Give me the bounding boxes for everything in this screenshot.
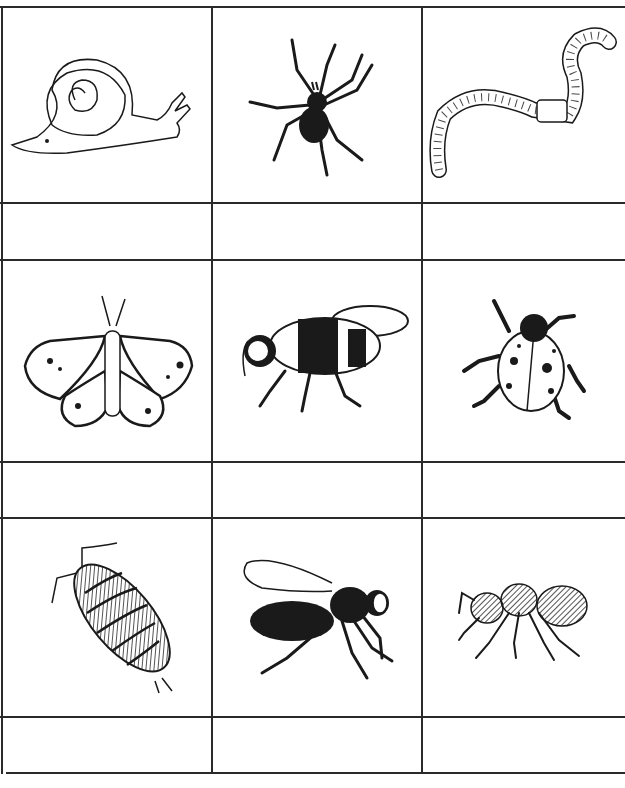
picture-cell-ladybird (423, 261, 625, 461)
picture-cell-earthworm (423, 8, 625, 202)
snail-icon (7, 45, 207, 165)
woodlouse-icon (27, 543, 187, 693)
picture-cell-woodlouse (3, 519, 211, 716)
spider-icon (242, 30, 392, 180)
label-cell-bumblebee[interactable] (213, 463, 421, 517)
bumblebee-icon (230, 301, 405, 421)
label-cell-snail[interactable] (3, 204, 211, 259)
label-cell-spider[interactable] (213, 204, 421, 259)
ladybird-icon (459, 296, 589, 426)
picture-cell-ant (423, 519, 625, 716)
picture-cell-snail (3, 8, 211, 202)
picture-cell-bumblebee (213, 261, 421, 461)
grid-line (6, 772, 625, 774)
picture-cell-spider (213, 8, 421, 202)
label-cell-wasp[interactable] (213, 718, 421, 772)
picture-cell-wasp (213, 519, 421, 716)
picture-cell-butterfly (3, 261, 211, 461)
label-cell-woodlouse[interactable] (3, 718, 211, 772)
ant-icon (454, 568, 594, 668)
label-cell-butterfly[interactable] (3, 463, 211, 517)
label-cell-earthworm[interactable] (423, 204, 625, 259)
earthworm-icon (429, 20, 619, 190)
wasp-icon (232, 553, 402, 683)
butterfly-icon (20, 291, 195, 431)
worksheet-grid (0, 0, 625, 788)
label-cell-ladybird[interactable] (423, 463, 625, 517)
label-cell-ant[interactable] (423, 718, 625, 772)
